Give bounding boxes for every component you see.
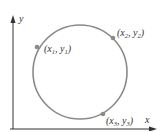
x-axis-label: x [144,114,150,125]
point-1-marker [35,45,40,50]
x-axis-arrow-icon [149,127,157,132]
point-2-marker [111,36,116,41]
point-1-label: (x1, y1) [44,43,72,55]
y-axis-arrow-icon [11,15,16,23]
point-3-marker [101,112,106,117]
circle-through-three-points-diagram: y x (x1, y1) (x2, y2) (x3, y3) [0,0,162,131]
point-2-label: (x2, y2) [117,27,145,39]
y-axis-label: y [18,13,24,24]
point-3-label: (x3, y3) [106,115,134,127]
